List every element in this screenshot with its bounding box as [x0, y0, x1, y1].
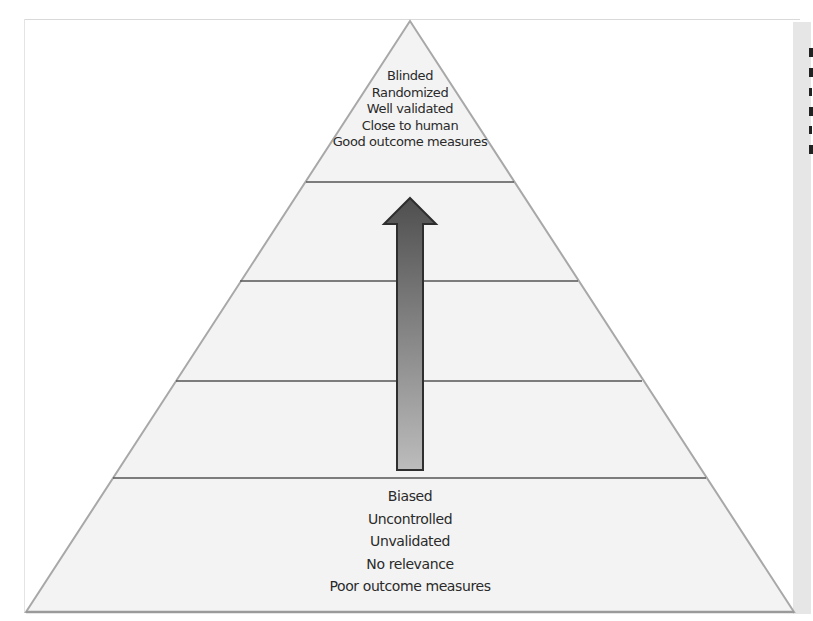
- bottom-tier-label: Biased Uncontrolled Unvalidated No relev…: [270, 485, 550, 598]
- top-tier-label: Blinded Randomized Well validated Close …: [305, 68, 515, 151]
- top-tier-line: Blinded: [305, 68, 515, 85]
- bottom-tier-line: Unvalidated: [270, 530, 550, 553]
- top-tier-line: Well validated: [305, 101, 515, 118]
- top-tier-line: Good outcome measures: [305, 134, 515, 151]
- bottom-tier-line: Poor outcome measures: [270, 575, 550, 598]
- bottom-tier-line: Biased: [270, 485, 550, 508]
- bottom-tier-line: No relevance: [270, 553, 550, 576]
- top-tier-line: Close to human: [305, 118, 515, 135]
- bottom-tier-line: Uncontrolled: [270, 508, 550, 531]
- top-tier-line: Randomized: [305, 85, 515, 102]
